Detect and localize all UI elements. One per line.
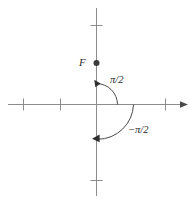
arc-path-positive <box>97 84 118 105</box>
arc-arrowhead-negative-icon <box>92 135 100 143</box>
axes-and-arcs-svg <box>0 0 190 199</box>
point-marker-F <box>94 60 100 66</box>
point-label-F: F <box>79 57 86 68</box>
complex-plane-figure: F π/2 −π/2 <box>0 0 190 199</box>
angle-label-negative-pi-half: −π/2 <box>128 125 149 136</box>
arc-arrowhead-positive-icon <box>94 80 100 88</box>
x-axis-arrowhead-icon <box>180 101 188 108</box>
angle-label-positive-pi-half: π/2 <box>110 75 123 86</box>
axis-group <box>8 8 188 196</box>
